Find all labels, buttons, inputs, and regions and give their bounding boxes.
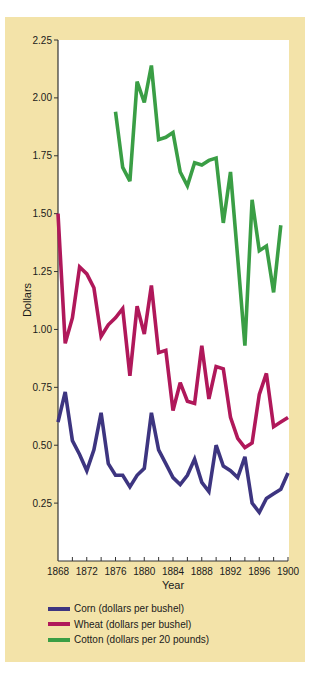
x-tick-label: 1888 [191, 566, 214, 577]
y-tick-label: 2.00 [33, 92, 53, 103]
legend: Corn (dollars per bushel) Wheat (dollars… [48, 601, 209, 648]
x-tick-label: 1872 [76, 566, 99, 577]
series-line-cotton [116, 66, 281, 346]
x-tick-label: 1868 [47, 566, 70, 577]
y-tick-label: 0.25 [33, 498, 53, 509]
wheat-swatch-icon [48, 622, 70, 626]
legend-item-corn: Corn (dollars per bushel) [48, 601, 209, 617]
cotton-swatch-icon [48, 638, 70, 642]
legend-item-cotton: Cotton (dollars per 20 pounds) [48, 632, 209, 648]
y-tick-label: 1.25 [33, 266, 53, 277]
legend-item-wheat: Wheat (dollars per bushel) [48, 617, 209, 633]
data-series [58, 66, 288, 513]
legend-label: Wheat (dollars per bushel) [74, 619, 191, 630]
x-axis-title: Year [162, 579, 185, 591]
y-tick-label: 2.25 [33, 35, 53, 46]
y-tick-label: 1.75 [33, 150, 53, 161]
x-tick-label: 1892 [219, 566, 242, 577]
y-tick-label: 0.75 [33, 382, 53, 393]
corn-swatch-icon [48, 607, 70, 611]
y-tick-label: 1.50 [33, 208, 53, 219]
y-tick-label: 0.50 [33, 440, 53, 451]
x-tick-label: 1880 [133, 566, 156, 577]
x-tick-label: 1900 [277, 566, 300, 577]
legend-label: Cotton (dollars per 20 pounds) [74, 634, 209, 645]
legend-label: Corn (dollars per bushel) [74, 603, 184, 614]
y-tick-label: 1.00 [33, 324, 53, 335]
series-line-wheat [58, 214, 288, 448]
x-tick-label: 1884 [162, 566, 185, 577]
x-tick-label: 1896 [248, 566, 271, 577]
line-chart: 0.250.500.751.001.251.501.752.002.251868… [0, 0, 321, 676]
y-axis-title: Dollars [21, 282, 33, 317]
x-tick-label: 1876 [104, 566, 127, 577]
